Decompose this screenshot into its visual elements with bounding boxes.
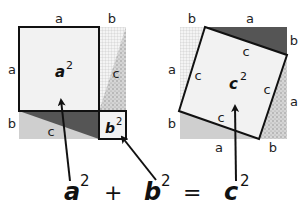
b-square-exponent: 2 bbox=[116, 116, 122, 127]
label-hyp-c-right: c bbox=[263, 82, 270, 97]
label-bottom-a: a bbox=[215, 140, 223, 155]
label-top-b: b bbox=[108, 11, 116, 26]
equation-c: c bbox=[224, 178, 238, 206]
label-hyp-c-left: c bbox=[194, 68, 201, 83]
equation-b-exponent: 2 bbox=[161, 172, 171, 190]
equation-a: a bbox=[64, 178, 80, 206]
equation-plus: + bbox=[104, 180, 122, 205]
c-square-label: c bbox=[229, 75, 238, 93]
label-hyp-c-bottom: c bbox=[217, 110, 224, 125]
label-hyp-c-top: c bbox=[242, 44, 249, 59]
label-left-a: a bbox=[168, 62, 176, 77]
equation-a-exponent: 2 bbox=[80, 172, 90, 190]
label-left-a: a bbox=[8, 62, 16, 77]
label-top-b: b bbox=[188, 11, 196, 26]
label-left-b: b bbox=[168, 116, 176, 131]
label-hyp-c-1: c bbox=[112, 66, 119, 81]
label-right-b: b bbox=[290, 33, 298, 48]
c-square-exponent: 2 bbox=[240, 70, 247, 83]
a-square-label: a bbox=[55, 63, 65, 81]
label-top-a: a bbox=[246, 11, 254, 26]
equation-b: b bbox=[144, 178, 161, 206]
label-top-a: a bbox=[55, 11, 63, 26]
arrow-c-squared bbox=[235, 106, 236, 181]
label-bottom-b: b bbox=[269, 140, 277, 155]
pythagoras-diagram: a b a b c c a 2 b 2 b a b a a b a b c c … bbox=[0, 0, 301, 219]
a-square-exponent: 2 bbox=[66, 59, 73, 72]
equation-equals: = bbox=[183, 180, 201, 205]
label-hyp-c-2: c bbox=[47, 124, 54, 139]
b-square-label: b bbox=[105, 120, 115, 136]
arrow-b-squared bbox=[122, 137, 156, 180]
equation: a 2 + b 2 = c 2 bbox=[64, 172, 250, 206]
equation-c-exponent: 2 bbox=[240, 172, 250, 190]
left-figure: a b a b c c a 2 b 2 bbox=[8, 11, 126, 139]
label-right-a: a bbox=[290, 94, 298, 109]
right-figure: b a b a a b a b c c c c c 2 bbox=[168, 11, 298, 155]
label-left-b: b bbox=[8, 116, 16, 131]
